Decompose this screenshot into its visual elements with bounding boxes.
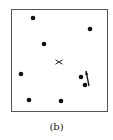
data-point (83, 83, 88, 88)
data-point (88, 27, 93, 32)
center-x-marker-icon (56, 60, 63, 64)
data-point (42, 42, 47, 47)
diagram-canvas (0, 0, 113, 140)
data-point (27, 98, 32, 103)
data-point (79, 75, 84, 80)
figure-caption: (b) (0, 121, 113, 133)
points-group (19, 16, 93, 104)
data-point (19, 72, 24, 77)
data-point (31, 16, 36, 21)
data-point (59, 99, 64, 104)
